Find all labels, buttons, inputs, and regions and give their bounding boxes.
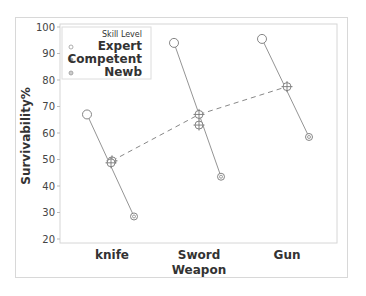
newb-point-sword bbox=[218, 173, 225, 180]
range-line-sword bbox=[174, 43, 221, 177]
expert-point-gun bbox=[258, 34, 267, 43]
legend-newb: Newb bbox=[104, 65, 142, 79]
y-tick-20: 20 bbox=[42, 234, 55, 245]
y-tick-60: 60 bbox=[42, 128, 55, 139]
expert-point-knife bbox=[83, 110, 92, 119]
y-tick-30: 30 bbox=[42, 207, 55, 218]
x-tick-gun: Gun bbox=[274, 248, 301, 262]
legend: Skill Level Expert Competent Newb bbox=[62, 27, 151, 79]
y-tick-70: 70 bbox=[42, 101, 55, 112]
y-axis-title: Survivability% bbox=[19, 87, 33, 184]
y-tick-40: 40 bbox=[42, 181, 55, 192]
expert-point-sword bbox=[170, 38, 179, 47]
newb-point-gun bbox=[306, 133, 313, 140]
y-axis: 2030405060708090100 bbox=[36, 22, 60, 245]
x-axis-title: Weapon bbox=[172, 263, 226, 277]
legend-newb-icon bbox=[69, 71, 73, 75]
legend-title: Skill Level bbox=[102, 30, 142, 39]
x-tick-knife: knife bbox=[95, 248, 129, 262]
y-tick-90: 90 bbox=[42, 48, 55, 59]
newb-point-knife bbox=[131, 213, 138, 220]
y-tick-50: 50 bbox=[42, 154, 55, 165]
y-tick-80: 80 bbox=[42, 75, 55, 86]
chart-svg: 2030405060708090100 knife Sword Gun Weap… bbox=[0, 0, 366, 296]
legend-expert: Expert bbox=[98, 39, 143, 53]
x-axis: knife Sword Gun bbox=[95, 248, 300, 262]
x-tick-sword: Sword bbox=[178, 248, 220, 262]
legend-competent: Competent bbox=[68, 52, 143, 66]
y-tick-100: 100 bbox=[36, 22, 55, 33]
